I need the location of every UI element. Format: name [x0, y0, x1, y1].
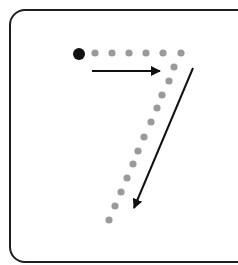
trace-dot	[123, 174, 130, 181]
trace-dot	[108, 49, 115, 56]
trace-dot	[117, 188, 124, 195]
trace-dot	[147, 118, 154, 125]
trace-dot	[129, 160, 136, 167]
tracing-worksheet	[0, 0, 238, 265]
trace-dot	[165, 77, 172, 84]
trace-dot	[158, 91, 165, 98]
trace-dot	[170, 63, 177, 70]
trace-dot	[91, 49, 98, 56]
trace-dot	[111, 202, 118, 209]
trace-dot	[134, 147, 141, 154]
trace-dot	[177, 49, 184, 56]
trace-dot	[140, 133, 147, 140]
trace-dot	[153, 104, 160, 111]
trace-dot	[125, 49, 132, 56]
trace-dot	[105, 216, 112, 223]
start-dot	[73, 48, 85, 60]
digit-seven-tracing-figure	[0, 0, 238, 265]
trace-dot	[159, 49, 166, 56]
trace-dot	[142, 49, 149, 56]
start-point	[73, 48, 85, 60]
